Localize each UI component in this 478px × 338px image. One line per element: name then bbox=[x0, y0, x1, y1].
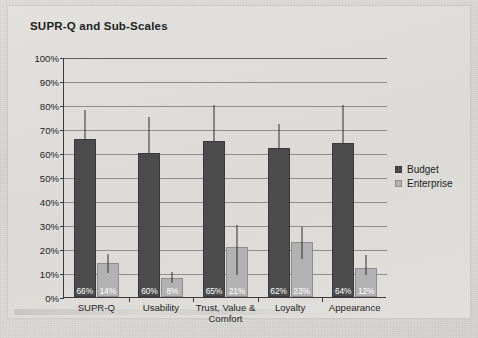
bar-enterprise-1[interactable]: 8% bbox=[161, 278, 183, 297]
bar-value-label: 8% bbox=[166, 287, 178, 295]
bar-group: 66%14% bbox=[64, 58, 129, 297]
bar-slot: 14% bbox=[97, 57, 119, 297]
y-axis-tick-label: 80% bbox=[40, 101, 59, 112]
y-axis-tick bbox=[60, 298, 64, 299]
error-bar bbox=[343, 105, 344, 143]
y-axis: 100%90%80%70%60%50%40%30%20%10%0% bbox=[8, 58, 59, 298]
bar-slot: 60% bbox=[138, 57, 160, 297]
bar-budget-4[interactable]: 64% bbox=[332, 143, 354, 297]
bar-slot: 8% bbox=[161, 57, 183, 297]
bar-budget-3[interactable]: 62% bbox=[268, 148, 290, 297]
error-bar bbox=[213, 105, 214, 141]
y-axis-tick-label: 50% bbox=[40, 173, 59, 184]
chart-legend: BudgetEnterprise bbox=[395, 164, 453, 192]
bar-slot: 12% bbox=[355, 57, 377, 297]
error-bar bbox=[278, 124, 279, 148]
y-axis-tick-label: 10% bbox=[40, 269, 59, 280]
bar-value-label: 64% bbox=[335, 287, 351, 295]
bar-pair: 64%12% bbox=[332, 58, 377, 297]
bar-pair: 60%8% bbox=[138, 58, 183, 297]
bar-value-label: 14% bbox=[100, 287, 116, 295]
bar-value-label: 60% bbox=[141, 287, 157, 295]
bar-enterprise-2[interactable]: 21% bbox=[226, 247, 248, 297]
bar-enterprise-0[interactable]: 14% bbox=[97, 263, 119, 297]
legend-label: Enterprise bbox=[407, 178, 453, 189]
error-bar bbox=[149, 117, 150, 153]
bar-group: 62%23% bbox=[258, 58, 323, 297]
bar-value-label: 23% bbox=[293, 287, 309, 295]
bar-slot: 64% bbox=[332, 57, 354, 297]
bar-group: 65%21% bbox=[193, 58, 258, 297]
y-axis-tick-label: 70% bbox=[40, 125, 59, 136]
y-axis-tick-label: 20% bbox=[40, 245, 59, 256]
bar-slot: 66% bbox=[74, 57, 96, 297]
caption-smudge bbox=[14, 309, 314, 315]
bar-group: 60%8% bbox=[129, 58, 194, 297]
x-axis-label: Appearance bbox=[322, 302, 387, 313]
bar-budget-0[interactable]: 66% bbox=[74, 139, 96, 297]
plot-area: 66%14%SUPR-Q60%8%Usability65%21%Trust, V… bbox=[63, 58, 386, 298]
error-bar bbox=[84, 110, 85, 139]
y-axis-tick-label: 100% bbox=[34, 53, 59, 64]
bar-slot: 23% bbox=[291, 57, 313, 297]
bar-budget-1[interactable]: 60% bbox=[138, 153, 160, 297]
legend-swatch-icon bbox=[395, 166, 402, 173]
bar-value-label: 21% bbox=[229, 287, 245, 295]
bar-value-label: 65% bbox=[206, 287, 222, 295]
bar-value-label: 12% bbox=[358, 287, 374, 295]
y-axis-tick-label: 30% bbox=[40, 221, 59, 232]
legend-item-enterprise[interactable]: Enterprise bbox=[395, 178, 453, 189]
bar-pair: 62%23% bbox=[268, 58, 313, 297]
figure-panel: SUPR-Q and Sub-Scales 100%90%80%70%60%50… bbox=[8, 6, 470, 318]
bar-pair: 66%14% bbox=[74, 58, 119, 297]
chart-title: SUPR-Q and Sub-Scales bbox=[30, 20, 168, 32]
bar-enterprise-4[interactable]: 12% bbox=[355, 268, 377, 297]
y-axis-tick-label: 40% bbox=[40, 197, 59, 208]
bar-value-label: 62% bbox=[270, 287, 286, 295]
bar-pair: 65%21% bbox=[203, 58, 248, 297]
y-axis-tick-label: 0% bbox=[45, 293, 59, 304]
bar-enterprise-3[interactable]: 23% bbox=[291, 242, 313, 297]
bar-slot: 21% bbox=[226, 57, 248, 297]
y-axis-tick-label: 90% bbox=[40, 77, 59, 88]
bar-slot: 62% bbox=[268, 57, 290, 297]
bar-group: 64%12% bbox=[322, 58, 387, 297]
bar-value-label: 66% bbox=[77, 287, 93, 295]
legend-label: Budget bbox=[407, 164, 439, 175]
legend-swatch-icon bbox=[395, 180, 402, 187]
legend-item-budget[interactable]: Budget bbox=[395, 164, 453, 175]
bar-slot: 65% bbox=[203, 57, 225, 297]
y-axis-tick-label: 60% bbox=[40, 149, 59, 160]
bar-budget-2[interactable]: 65% bbox=[203, 141, 225, 297]
